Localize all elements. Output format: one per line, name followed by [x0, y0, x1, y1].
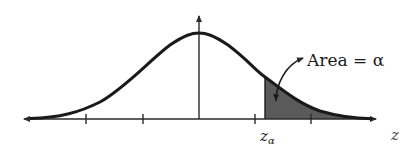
axis-label-z: z: [391, 126, 399, 144]
critical-value-subscript: α: [268, 135, 275, 146]
critical-value-symbol: z: [260, 127, 268, 145]
normal-curve-diagram: [0, 0, 415, 152]
bell-curve: [30, 33, 372, 119]
critical-value-label: zα: [260, 127, 275, 146]
area-annotation: Area = α: [307, 50, 384, 70]
